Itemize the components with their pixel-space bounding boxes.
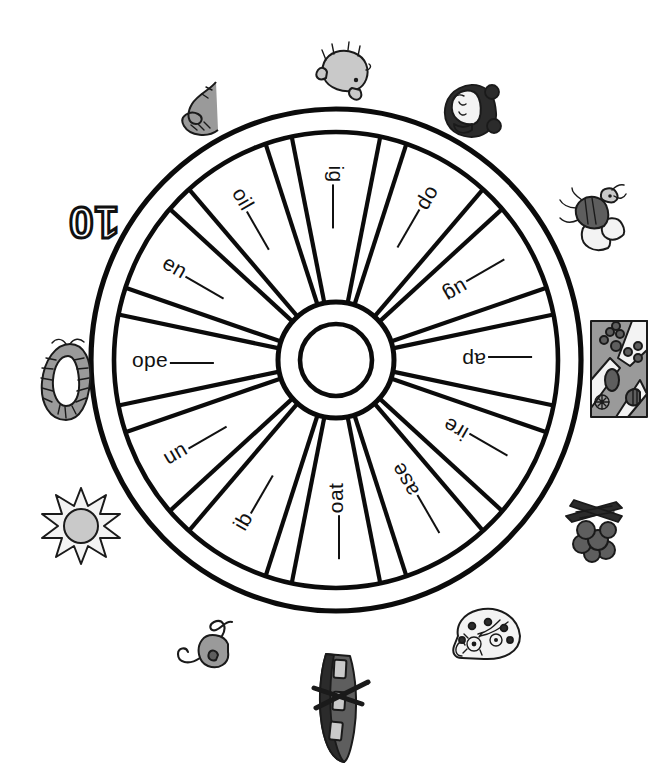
clue-mop xyxy=(438,76,510,142)
spoke-edge xyxy=(379,398,502,511)
clue-map xyxy=(588,318,650,420)
spoke-edge xyxy=(374,189,483,316)
tadpole-icon xyxy=(166,612,238,674)
clue-coil xyxy=(160,74,230,144)
map-icon xyxy=(588,318,650,420)
wheel-graphic xyxy=(86,104,586,616)
sun-icon xyxy=(38,486,124,566)
wheel-hub-outer xyxy=(278,302,394,418)
wheel-rim-outer xyxy=(91,109,581,611)
spoke-edge xyxy=(189,403,298,530)
boat-icon xyxy=(298,648,378,766)
girl-head-icon xyxy=(438,76,510,142)
bug-icon xyxy=(556,182,630,254)
wheel-hub-inner xyxy=(300,324,372,396)
clue-fire xyxy=(556,492,632,568)
number-10-icon: 10 xyxy=(68,200,119,244)
clue-rope xyxy=(34,336,96,426)
wheel-rim-inner xyxy=(114,132,558,588)
rope-icon xyxy=(34,336,96,426)
spoke-edge xyxy=(374,403,483,530)
clue-vase xyxy=(448,600,528,666)
spoke-edge xyxy=(170,398,293,511)
wheel-spoke-lines xyxy=(119,137,554,584)
clue-sun xyxy=(38,486,124,566)
spoke-edge xyxy=(379,209,502,322)
campfire-icon xyxy=(556,492,632,568)
clue-bib xyxy=(166,612,238,674)
clue-ten: 10 xyxy=(68,200,119,244)
clue-bug xyxy=(556,182,630,254)
spoke-edge xyxy=(170,209,293,322)
vase-icon xyxy=(448,600,528,666)
spoke-edge xyxy=(189,189,298,316)
snake-icon xyxy=(160,74,230,144)
word-family-wheel: igopugapireaseoatibunopeenoil xyxy=(86,104,586,616)
clue-boat xyxy=(298,648,378,766)
worksheet-page: igopugapireaseoatibunopeenoil xyxy=(0,0,672,782)
clue-pig xyxy=(310,40,376,108)
pig-icon xyxy=(310,40,376,108)
